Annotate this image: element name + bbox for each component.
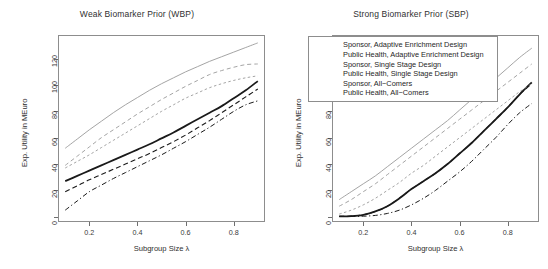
y-tick-label: 80 (324, 111, 333, 119)
y-axis-label-right: Exp. Utility in MEuro (294, 98, 303, 166)
x-tick-label: 0.2 (81, 228, 97, 237)
legend-label: Public Health, Single Stage Design (343, 69, 458, 78)
x-axis-label-left: Subgroup Size λ (58, 244, 265, 253)
panel-title-left: Weak Biomarker Prior (WBP) (0, 9, 274, 19)
series-layer-left (58, 35, 265, 222)
y-tick-label: 120 (50, 55, 59, 67)
x-tick (411, 222, 412, 226)
y-tick-label: 0 (50, 221, 59, 225)
series-line (65, 64, 258, 165)
legend-item[interactable]: Public Health, Single Stage Design (311, 69, 495, 79)
series-line (65, 76, 258, 168)
y-tick-label: 40 (50, 164, 59, 172)
panel-strong-biomarker-prior: Strong Biomarker Prior (SBP) 0.20.40.60.… (274, 0, 548, 269)
y-tick-label: 40 (324, 164, 333, 172)
y-tick-label: 80 (50, 111, 59, 119)
x-tick-label: 0.4 (403, 228, 419, 237)
x-tick (363, 222, 364, 226)
y-tick-label: 0 (324, 221, 333, 225)
x-tick-label: 0.8 (226, 228, 242, 237)
y-tick (328, 217, 332, 218)
x-tick-label: 0.6 (452, 228, 468, 237)
x-tick (234, 222, 235, 226)
series-line (339, 84, 532, 217)
x-tick (508, 222, 509, 226)
x-tick (186, 222, 187, 226)
x-tick-label: 0.2 (355, 228, 371, 237)
series-line (339, 82, 532, 216)
legend-item[interactable]: Sponsor, Adaptive Enrichment Design (311, 40, 495, 50)
x-axis-label-right: Subgroup Size λ (332, 244, 539, 253)
x-tick-label: 0.6 (178, 228, 194, 237)
y-tick-label: 60 (50, 138, 59, 146)
series-line (65, 89, 258, 192)
figure-root: Weak Biomarker Prior (WBP) 0.20.40.60.80… (0, 0, 548, 269)
y-tick-label: 20 (50, 190, 59, 198)
panel-weak-biomarker-prior: Weak Biomarker Prior (WBP) 0.20.40.60.80… (0, 0, 274, 269)
legend-item[interactable]: Sponsor, Single Stage Design (311, 59, 495, 69)
legend-label: Sponsor, All−Comers (343, 79, 412, 88)
legend-item[interactable]: Public Health, All−Comers (311, 88, 495, 98)
y-tick-label: 60 (324, 138, 333, 146)
legend-label: Sponsor, Single Stage Design (343, 60, 441, 69)
x-tick (137, 222, 138, 226)
legend-label: Public Health, All−Comers (343, 88, 429, 97)
y-tick-label: 20 (324, 190, 333, 198)
legend-label: Sponsor, Adaptive Enrichment Design (343, 40, 467, 49)
y-axis-label-left: Exp. Utility in MEuro (20, 98, 29, 166)
legend-item[interactable]: Public Health, Adaptive Enrichment Desig… (311, 50, 495, 60)
x-tick (89, 222, 90, 226)
y-tick (54, 217, 58, 218)
chart-legend: Sponsor, Adaptive Enrichment DesignPubli… (308, 36, 498, 102)
x-tick-label: 0.8 (500, 228, 516, 237)
series-line (339, 84, 532, 214)
x-tick-label: 0.4 (129, 228, 145, 237)
y-tick-label: 100 (50, 81, 59, 93)
series-line (65, 81, 258, 181)
legend-label: Public Health, Adaptive Enrichment Desig… (343, 50, 484, 59)
series-line (65, 101, 258, 210)
series-line (65, 43, 258, 148)
legend-item[interactable]: Sponsor, All−Comers (311, 78, 495, 88)
x-tick (460, 222, 461, 226)
panel-title-right: Strong Biomarker Prior (SBP) (274, 9, 548, 19)
series-line (339, 103, 532, 216)
